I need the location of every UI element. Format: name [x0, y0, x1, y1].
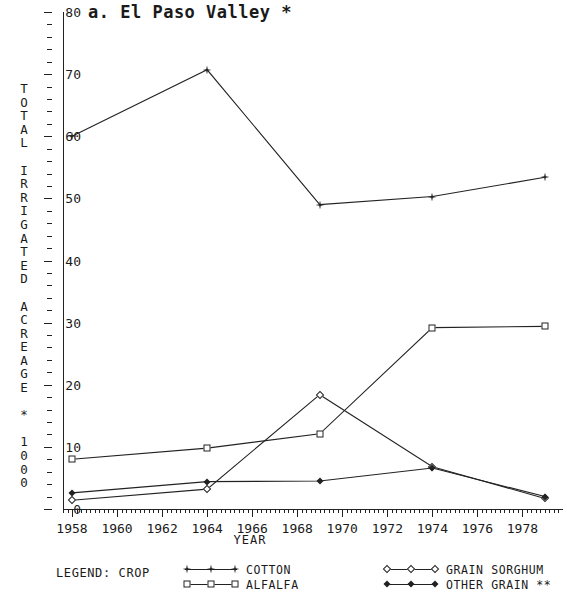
legend-item[interactable]: GRAIN SORGHUM: [383, 563, 551, 576]
x-tick-minor: [396, 509, 397, 513]
x-tick-major: [252, 509, 253, 517]
y-tick-minor: [47, 223, 52, 224]
x-tick-minor: [77, 509, 78, 513]
data-point-marker: [203, 65, 212, 74]
x-tick-minor: [225, 509, 226, 513]
y-axis-title-char: C: [16, 313, 32, 327]
legend-label: GRAIN SORGHUM: [446, 563, 544, 577]
x-tick-minor: [221, 509, 222, 513]
y-axis-title-char: A: [16, 354, 32, 368]
legend-item[interactable]: ALFALFA: [183, 578, 299, 591]
x-tick-minor: [423, 509, 424, 513]
x-tick-minor: [153, 509, 154, 513]
y-axis-title-char: [16, 422, 32, 436]
x-tick-minor: [500, 509, 501, 513]
y-tick-minor: [47, 149, 52, 150]
x-tick-minor: [257, 509, 258, 513]
y-tick-minor: [47, 397, 52, 398]
y-tick-minor: [47, 236, 52, 237]
y-axis-title-char: 0: [16, 476, 32, 490]
y-tick-minor: [47, 161, 52, 162]
y-tick-major: [44, 261, 52, 262]
x-tick-minor: [329, 509, 330, 513]
x-tick-minor: [378, 509, 379, 513]
y-tick-minor: [47, 62, 52, 63]
y-tick-minor: [47, 472, 52, 473]
x-tick-minor: [315, 509, 316, 513]
x-tick-minor: [248, 509, 249, 513]
y-axis-title-char: E: [16, 381, 32, 395]
y-tick-minor: [47, 124, 52, 125]
y-axis-title-char: A: [16, 300, 32, 314]
y-axis-title-char: R: [16, 191, 32, 205]
legend-item[interactable]: COTTON: [183, 563, 299, 576]
y-tick-minor: [47, 49, 52, 50]
data-point-marker: [540, 173, 549, 182]
x-tick-minor: [288, 509, 289, 513]
x-tick-minor: [90, 509, 91, 513]
x-tick-major: [342, 509, 343, 517]
x-tick-minor: [311, 509, 312, 513]
y-tick-major: [44, 385, 52, 386]
x-tick-minor: [81, 509, 82, 513]
y-axis-title-char: D: [16, 272, 32, 286]
data-point-marker: [316, 430, 323, 437]
x-tick-minor: [86, 509, 87, 513]
x-tick-minor: [338, 509, 339, 513]
x-tick-minor: [495, 509, 496, 513]
legend-marker-icon: [407, 565, 415, 573]
series-lines: [63, 12, 563, 509]
y-axis-title-char: T: [16, 245, 32, 259]
legend-marker-sample: [183, 579, 239, 590]
legend-item[interactable]: OTHER GRAIN **: [383, 578, 551, 591]
x-tick-minor: [320, 509, 321, 513]
legend-marker-sample: [383, 579, 439, 590]
legend-label: COTTON: [246, 563, 291, 577]
x-tick-minor: [171, 509, 172, 513]
x-tick-minor: [401, 509, 402, 513]
data-point-marker: [428, 192, 437, 201]
x-axis-line: [63, 509, 563, 510]
x-tick-minor: [468, 509, 469, 513]
series-line: [72, 326, 545, 459]
x-tick-major: [207, 509, 208, 517]
x-tick-minor: [275, 509, 276, 513]
legend-marker-icon: [431, 565, 439, 573]
y-axis-title-char: T: [16, 109, 32, 123]
legend-marker-icon: [184, 581, 191, 588]
x-tick-minor: [455, 509, 456, 513]
x-axis-title: YEAR: [0, 533, 500, 547]
y-axis-title-char: 1: [16, 435, 32, 449]
x-tick-minor: [554, 509, 555, 513]
y-tick-major: [44, 136, 52, 137]
y-tick-minor: [47, 347, 52, 348]
legend-marker-icon: [383, 565, 391, 573]
x-tick-minor: [243, 509, 244, 513]
x-tick-minor: [383, 509, 384, 513]
data-point-marker: [541, 323, 548, 330]
legend-marker-icon: [407, 580, 414, 587]
x-tick-minor: [351, 509, 352, 513]
legend-marker-sample: [383, 564, 439, 575]
y-tick-minor: [47, 186, 52, 187]
y-tick-major: [44, 74, 52, 75]
y-axis-title-char: 0: [16, 449, 32, 463]
x-tick-minor: [203, 509, 204, 513]
y-axis-title-char: *: [16, 408, 32, 422]
x-tick-minor: [144, 509, 145, 513]
x-tick-minor: [374, 509, 375, 513]
series-line: [72, 70, 545, 205]
y-tick-major: [44, 509, 52, 510]
x-tick-minor: [450, 509, 451, 513]
y-axis-title-char: [16, 150, 32, 164]
y-axis-title-char: G: [16, 367, 32, 381]
y-tick-minor: [47, 484, 52, 485]
y-axis-title-char: I: [16, 164, 32, 178]
x-tick-minor: [140, 509, 141, 513]
x-tick-minor: [419, 509, 420, 513]
x-tick-minor: [414, 509, 415, 513]
x-tick-minor: [131, 509, 132, 513]
x-tick-minor: [99, 509, 100, 513]
x-tick-major: [432, 509, 433, 517]
x-tick-minor: [545, 509, 546, 513]
